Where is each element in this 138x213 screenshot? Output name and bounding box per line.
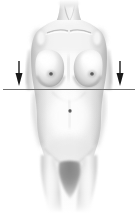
- nipple-right: [90, 72, 94, 76]
- torso-illustration: [0, 0, 138, 213]
- anatomical-figure: Female torso anterior view with bilatera…: [0, 0, 138, 213]
- breast-right: [74, 50, 103, 87]
- breast-left: [35, 50, 64, 87]
- umbilicus: [68, 109, 72, 113]
- nipple-left: [49, 72, 53, 76]
